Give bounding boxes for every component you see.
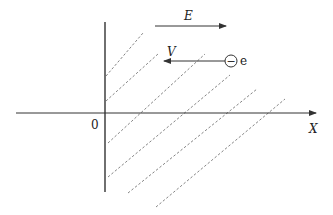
x-axis-label: X <box>308 122 318 136</box>
dashed-line-6 <box>156 99 285 207</box>
field-label: E <box>183 9 193 23</box>
charge-sign: − <box>226 55 235 68</box>
equipotential-lines <box>106 33 285 207</box>
dashed-line-1 <box>106 33 143 76</box>
velocity-label: V <box>167 45 177 59</box>
origin-label: 0 <box>91 118 99 132</box>
particle-label: e <box>240 54 247 68</box>
dashed-line-2 <box>106 54 158 101</box>
dashed-line-3 <box>108 54 205 143</box>
dashed-line-5 <box>128 89 257 193</box>
diagram-canvas: E V − e 0 X <box>0 0 333 215</box>
